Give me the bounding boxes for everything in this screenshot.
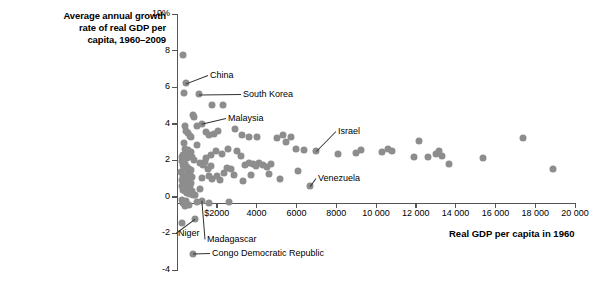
data-point: [178, 153, 185, 160]
data-point: [205, 200, 212, 207]
data-point: [230, 171, 237, 178]
data-point: [179, 52, 186, 59]
data-point: [438, 152, 445, 159]
annotation-leader-line: [201, 201, 205, 240]
data-point: [193, 123, 200, 130]
data-point: [224, 146, 231, 153]
x-tick-label: 16 000: [482, 208, 510, 218]
chart-title-line-2: rate of real GDP per: [4, 22, 166, 34]
scatter-chart-figure: Average annual growth rate of real GDP p…: [0, 0, 604, 287]
x-tick-label: 10 000: [362, 208, 390, 218]
data-point: [277, 176, 284, 183]
y-tick-label: 4: [148, 119, 170, 128]
annotation-label: Madagascar: [207, 234, 257, 244]
data-point: [280, 131, 287, 138]
data-point: [424, 153, 431, 160]
data-point: [193, 141, 200, 148]
data-point: [245, 134, 252, 141]
data-point: [193, 199, 200, 206]
x-tick-label: 4000: [247, 208, 267, 218]
data-point: [179, 196, 186, 203]
data-point: [185, 202, 192, 209]
data-point: [410, 153, 417, 160]
data-point: [216, 177, 223, 184]
annotation-leader-line: [316, 131, 336, 152]
x-axis-label: Real GDP per capita in 1960: [449, 228, 575, 239]
x-tick-label: 18 000: [521, 208, 549, 218]
data-point: [191, 114, 198, 121]
data-point: [214, 128, 221, 135]
annotation-label: China: [210, 70, 234, 80]
data-point: [253, 133, 260, 140]
annotation-leader-line: [202, 118, 226, 125]
x-tick-label: 8000: [326, 208, 346, 218]
y-tick-mark: [172, 123, 177, 124]
data-point: [238, 131, 245, 138]
data-point: [219, 102, 226, 109]
data-point: [247, 171, 254, 178]
data-point: [207, 162, 214, 169]
data-point: [178, 177, 185, 184]
data-point: [237, 152, 244, 159]
data-point: [178, 169, 185, 176]
chart-title-line-3: capita, 1960–2009: [4, 34, 166, 46]
x-tick-label: 20 000: [561, 208, 589, 218]
data-point: [335, 150, 342, 157]
data-point: [295, 168, 302, 175]
y-tick-label: 8: [148, 46, 170, 55]
data-point: [273, 135, 280, 142]
data-point: [288, 133, 295, 140]
y-tick-label: -4: [148, 265, 170, 274]
y-tick-label: 2: [148, 155, 170, 164]
chart-title: Average annual growth rate of real GDP p…: [4, 10, 166, 47]
data-point: [293, 146, 300, 153]
chart-title-line-1: Average annual growth: [4, 10, 166, 22]
annotation-label: South Korea: [243, 89, 293, 99]
y-tick-mark: [172, 196, 177, 197]
data-point: [480, 155, 487, 162]
y-tick-mark: [172, 87, 177, 88]
x-tick-label: 6000: [286, 208, 306, 218]
annotation-leader-line: [186, 75, 208, 84]
y-tick-label: 10%: [148, 9, 170, 18]
data-point: [415, 138, 422, 145]
y-tick-mark: [172, 50, 177, 51]
data-point: [267, 160, 274, 167]
data-point: [202, 154, 209, 161]
data-point: [191, 192, 198, 199]
y-tick-mark: [172, 270, 177, 271]
data-point: [550, 165, 557, 172]
data-point: [208, 102, 215, 109]
data-point: [196, 185, 203, 192]
annotation-label: Venezuela: [318, 173, 360, 183]
annotation-label: Israel: [338, 126, 360, 136]
data-point: [358, 147, 365, 154]
x-tick-label: $2000: [204, 208, 229, 218]
annotation-leader-line: [193, 253, 211, 255]
data-point: [225, 199, 232, 206]
data-point: [520, 135, 527, 142]
annotation-label: Malaysia: [228, 113, 264, 123]
data-point: [188, 133, 195, 140]
y-tick-label: -2: [148, 228, 170, 237]
data-point: [445, 160, 452, 167]
y-tick-label: 6: [148, 82, 170, 91]
data-point: [301, 147, 308, 154]
data-point: [265, 171, 272, 178]
data-point: [231, 126, 238, 133]
x-tick-label: 14 000: [442, 208, 470, 218]
y-tick-mark: [172, 14, 177, 15]
data-point: [388, 148, 395, 155]
y-tick-label: 0: [148, 192, 170, 201]
annotation-label: Congo Democratic Republic: [212, 248, 324, 258]
y-tick-mark: [172, 160, 177, 161]
annotation-leader-line: [199, 94, 241, 95]
data-point: [218, 150, 225, 157]
x-tick-label: 12 000: [402, 208, 430, 218]
data-point: [239, 178, 246, 185]
data-point: [180, 89, 187, 96]
